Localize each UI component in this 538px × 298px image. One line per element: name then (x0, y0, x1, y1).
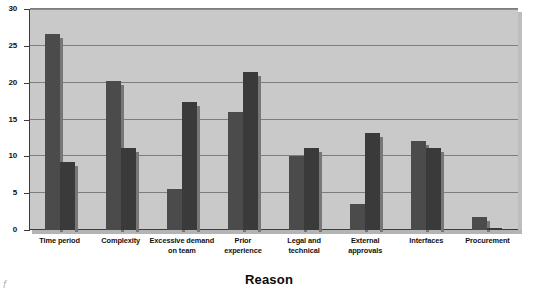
bar (289, 156, 304, 230)
bar-shadow (197, 106, 200, 232)
bar-fill (60, 162, 75, 230)
bar-shadow (487, 221, 490, 232)
bar-group (29, 9, 90, 230)
bar-group (151, 9, 212, 230)
bar (365, 133, 380, 230)
bar (182, 102, 197, 230)
bar-shadow (136, 152, 139, 233)
y-tick-label-5: 5 (13, 189, 17, 197)
y-tick-mark-0 (24, 230, 30, 231)
bar-group (212, 9, 273, 230)
bar-fill (487, 228, 502, 230)
corner-artifact: f (3, 278, 10, 290)
bar-fill (365, 133, 380, 230)
x-axis-category-labels: Time periodComplexityExcessive demand on… (29, 236, 518, 266)
x-tick-label: Procurement (451, 236, 524, 246)
y-tick-mark-5 (24, 193, 30, 194)
bar-fill (228, 112, 243, 230)
bar-fill (411, 141, 426, 230)
y-tick-label-30: 30 (9, 5, 18, 13)
bar (350, 204, 365, 230)
bar (167, 189, 182, 230)
bar-fill (304, 148, 319, 231)
bar-group (335, 9, 396, 230)
bar-group (274, 9, 335, 230)
bar (304, 148, 319, 231)
bar-shadow (258, 76, 261, 232)
bar (426, 148, 441, 231)
bars-layer (29, 9, 518, 230)
y-tick-mark-15 (24, 120, 30, 121)
bar-shadow (380, 137, 383, 232)
x-axis-title: Reason (0, 272, 538, 287)
y-tick-label-20: 20 (9, 79, 18, 87)
bar-shadow (75, 166, 78, 232)
y-tick-label-25: 25 (9, 42, 18, 50)
y-tick-mark-10 (24, 156, 30, 157)
bar (106, 81, 121, 230)
bar (45, 34, 60, 230)
plot-frame-shadow-right (518, 12, 522, 233)
y-tick-mark-25 (24, 46, 30, 47)
bar-fill (472, 217, 487, 230)
bar-group (90, 9, 151, 230)
y-tick-mark-20 (24, 83, 30, 84)
bar (243, 72, 258, 230)
bar-fill (182, 102, 197, 230)
bar (228, 112, 243, 230)
bar-fill (289, 156, 304, 230)
bar-shadow (441, 152, 444, 233)
bar-fill (243, 72, 258, 230)
plot-frame-shadow-bottom (32, 230, 522, 234)
bar-chart: 051015202530 Time periodComplexityExcess… (0, 0, 538, 298)
y-tick-label-15: 15 (9, 116, 18, 124)
y-tick-mark-30 (24, 9, 30, 10)
bar-fill (350, 204, 365, 230)
bar (121, 148, 136, 231)
bar (487, 228, 502, 230)
bar-fill (121, 148, 136, 231)
bar-fill (426, 148, 441, 231)
bar-fill (167, 189, 182, 230)
bar-fill (45, 34, 60, 230)
bar-shadow (319, 152, 322, 233)
bar-fill (106, 81, 121, 230)
y-tick-label-10: 10 (9, 152, 18, 160)
bar-group (396, 9, 457, 230)
y-tick-label-0: 0 (13, 226, 17, 234)
bar (60, 162, 75, 230)
bar-group (457, 9, 518, 230)
bar (411, 141, 426, 230)
bar (472, 217, 487, 230)
